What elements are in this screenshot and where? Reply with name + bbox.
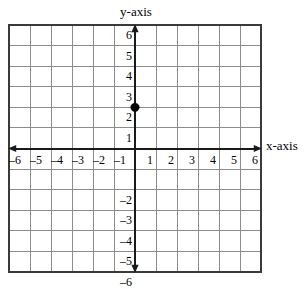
x-axis-title: x-axis <box>266 138 298 154</box>
y-tick-label: –6 <box>110 276 132 288</box>
x-tick-label: 6 <box>245 154 265 166</box>
y-axis-title: y-axis <box>0 4 272 20</box>
y-tick-label: –5 <box>110 255 132 267</box>
x-tick-label: 3 <box>182 154 202 166</box>
y-tick-label: 6 <box>110 29 132 41</box>
x-tick-label: –1 <box>110 154 130 166</box>
y-tick-label: 1 <box>110 132 132 144</box>
y-tick-label: –2 <box>110 194 132 206</box>
x-tick-label: 4 <box>203 154 223 166</box>
x-tick-label: 1 <box>140 154 160 166</box>
x-tick-label: 2 <box>161 154 181 166</box>
y-tick-label: –4 <box>110 235 132 247</box>
x-tick-label: –3 <box>68 154 88 166</box>
y-tick-label: 2 <box>110 111 132 123</box>
x-tick-label: –5 <box>26 154 46 166</box>
x-tick-label: –6 <box>5 154 25 166</box>
y-tick-label: 5 <box>110 50 132 62</box>
y-tick-label: 3 <box>110 91 132 103</box>
plotted-points <box>131 103 139 111</box>
y-tick-label: 4 <box>110 70 132 82</box>
axis-lines <box>8 24 262 273</box>
x-tick-label: –2 <box>89 154 109 166</box>
y-tick-label: –3 <box>110 214 132 226</box>
x-tick-label: –4 <box>47 154 67 166</box>
x-tick-label: 5 <box>224 154 244 166</box>
